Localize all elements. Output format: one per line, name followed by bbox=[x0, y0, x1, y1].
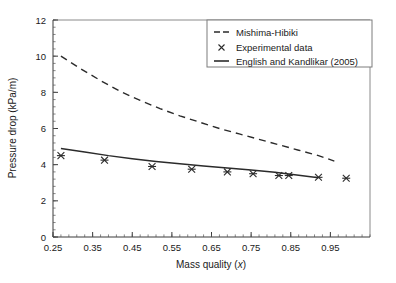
y-axis-title: Pressure drop (kPa/m) bbox=[7, 78, 18, 179]
x-tick-label: 0.25 bbox=[44, 242, 63, 253]
x-axis-minor-ticks bbox=[53, 234, 370, 237]
x-axis-title: Mass quality (x) bbox=[176, 259, 246, 270]
chart-figure: 024681012 0.250.350.450.550.650.750.850.… bbox=[0, 0, 396, 283]
x-tick-label: 0.75 bbox=[242, 242, 261, 253]
legend-label-mishima-hibiki: Mishima-Hibiki bbox=[236, 27, 298, 38]
x-tick-label: 0.85 bbox=[282, 242, 301, 253]
x-tick-label: 0.65 bbox=[202, 242, 221, 253]
y-tick-label: 0 bbox=[41, 232, 46, 243]
y-tick-label: 4 bbox=[41, 159, 46, 170]
x-axis-title-paren: ) bbox=[243, 259, 246, 270]
legend-entry-english-kandlikar: English and Kandlikar (2005) bbox=[214, 56, 358, 67]
x-axis-title-text: Mass quality ( bbox=[176, 259, 238, 270]
x-tick-label: 0.55 bbox=[163, 242, 182, 253]
legend: Mishima-Hibiki Experimental data English… bbox=[207, 20, 372, 67]
x-tick-label: 0.45 bbox=[123, 242, 142, 253]
x-tick-label: 0.35 bbox=[83, 242, 102, 253]
y-tick-label: 10 bbox=[35, 51, 46, 62]
legend-label-english-kandlikar: English and Kandlikar (2005) bbox=[236, 56, 358, 67]
x-tick-label: 0.95 bbox=[321, 242, 340, 253]
legend-label-experimental-data: Experimental data bbox=[236, 42, 313, 53]
y-tick-label: 12 bbox=[35, 15, 46, 26]
y-tick-label: 6 bbox=[41, 123, 46, 134]
y-tick-label: 2 bbox=[41, 195, 46, 206]
y-tick-label: 8 bbox=[41, 87, 46, 98]
pressure-drop-vs-mass-quality-chart: 024681012 0.250.350.450.550.650.750.850.… bbox=[0, 0, 396, 283]
